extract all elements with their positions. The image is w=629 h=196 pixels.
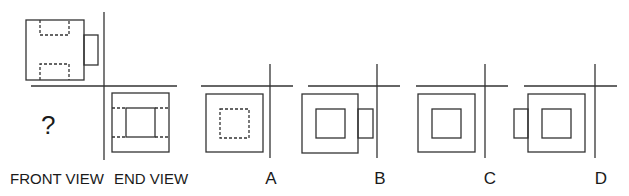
- front-view-label: FRONT VIEW: [10, 170, 104, 188]
- given-end-view: [112, 93, 169, 152]
- projection-diagram: [0, 0, 629, 196]
- option-a-label[interactable]: A: [265, 170, 276, 188]
- option-b-label[interactable]: B: [374, 170, 385, 188]
- option-c-figure[interactable]: [416, 64, 508, 158]
- option-d-figure[interactable]: [514, 64, 617, 158]
- option-c-label[interactable]: C: [484, 170, 496, 188]
- option-a-figure[interactable]: [201, 64, 293, 158]
- end-view-label: END VIEW: [114, 170, 188, 188]
- given-top-view: [26, 20, 98, 80]
- option-b-figure[interactable]: [302, 64, 400, 158]
- unknown-front-view-mark: ?: [41, 110, 55, 140]
- option-d-label[interactable]: D: [595, 170, 607, 188]
